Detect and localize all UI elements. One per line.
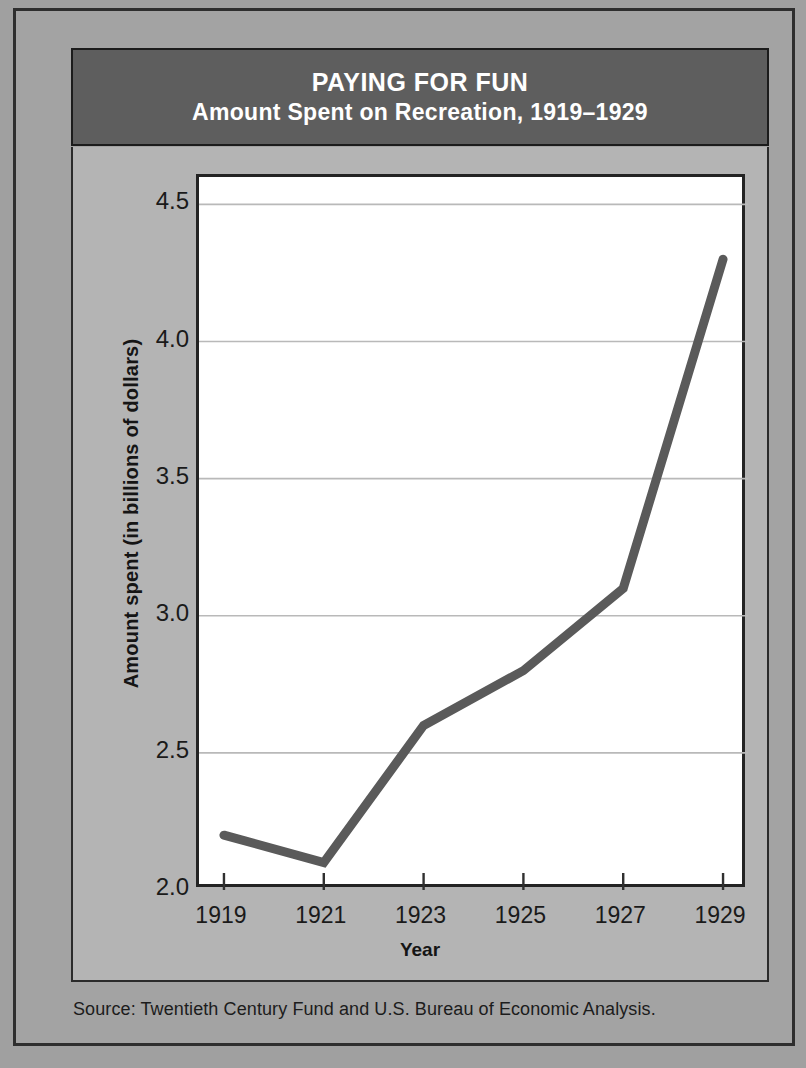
y-tick-label: 4.5 [119, 187, 189, 215]
chart-title-subtitle: Amount Spent on Recreation, 1919–1929 [192, 99, 648, 125]
y-tick-label: 2.5 [119, 736, 189, 764]
x-tick-label: 1919 [176, 902, 266, 929]
chart-title-banner: PAYING FOR FUN Amount Spent on Recreatio… [71, 48, 769, 146]
data-line-series-1 [224, 259, 723, 862]
figure-outer-frame: PAYING FOR FUN Amount Spent on Recreatio… [13, 8, 795, 1046]
y-tick-label: 4.0 [119, 325, 189, 353]
y-axis-tick-labels: 4.54.03.53.02.52.0 [111, 174, 189, 887]
plot-area [196, 174, 745, 887]
x-axis-title: Year [73, 939, 767, 961]
source-note: Source: Twentieth Century Fund and U.S. … [73, 999, 656, 1020]
x-tick-label: 1927 [575, 902, 665, 929]
x-tick-label: 1923 [376, 902, 466, 929]
gridlines [199, 204, 748, 752]
y-tick-label: 3.5 [119, 462, 189, 490]
chart-card: Amount spent (in billions of dollars) 4.… [71, 147, 769, 982]
x-axis-tick-marks [224, 873, 723, 890]
chart-title-main: PAYING FOR FUN [312, 69, 529, 97]
y-tick-label: 2.0 [119, 873, 189, 901]
x-tick-label: 1929 [675, 902, 765, 929]
x-tick-label: 1925 [475, 902, 565, 929]
chart-svg [199, 177, 748, 890]
x-tick-label: 1921 [276, 902, 366, 929]
figure-page: PAYING FOR FUN Amount Spent on Recreatio… [0, 0, 806, 1068]
y-tick-label: 3.0 [119, 599, 189, 627]
plot-wrapper: 4.54.03.53.02.52.0 191919211923192519271… [196, 174, 791, 889]
